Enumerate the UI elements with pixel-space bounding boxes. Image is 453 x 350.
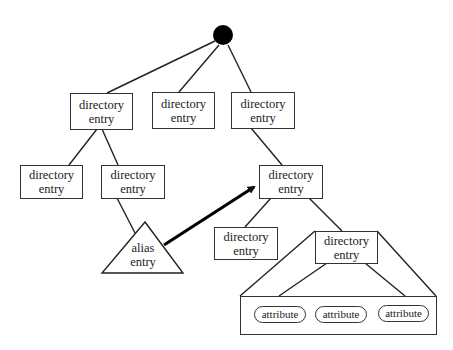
- directory-entry-f: directory entry: [259, 165, 323, 199]
- edge-h-container-right: [377, 231, 436, 296]
- edge-a-e: [102, 129, 118, 165]
- edge-e-alias: [117, 198, 135, 233]
- node-label-line1: directory: [324, 234, 369, 248]
- node-label-line2: entry: [278, 182, 304, 196]
- edge-h-attr1: [279, 263, 327, 296]
- node-label-line1: directory: [79, 98, 124, 112]
- edge-a-d: [69, 129, 97, 165]
- attribute-pill: attribute: [378, 305, 429, 322]
- node-label-line2: entry: [120, 182, 146, 196]
- alias-label-line1: alias: [113, 241, 173, 255]
- edge-h-attr3: [365, 263, 405, 296]
- node-label-line2: entry: [171, 111, 197, 125]
- node-label-line2: entry: [39, 182, 65, 196]
- directory-entry-g: directory entry: [214, 227, 278, 260]
- directory-entry-b: directory entry: [152, 92, 215, 129]
- directory-entry-a: directory entry: [70, 93, 133, 130]
- edge-c-f: [251, 128, 282, 165]
- alias-label-line2: entry: [113, 255, 173, 269]
- attribute-pill: attribute: [254, 306, 306, 323]
- directory-entry-d: directory entry: [20, 165, 83, 199]
- edge-f-h: [309, 198, 342, 231]
- node-label-line1: directory: [110, 168, 155, 182]
- node-label-line1: directory: [268, 168, 313, 182]
- node-label-line2: entry: [233, 244, 259, 258]
- node-label-line1: directory: [29, 168, 74, 182]
- root-node-icon: [213, 25, 233, 45]
- node-label-line2: entry: [89, 112, 115, 126]
- edge-root-c: [228, 45, 251, 92]
- node-label-line2: entry: [334, 248, 360, 262]
- edge-f-g: [245, 198, 271, 227]
- node-label-line1: directory: [161, 97, 206, 111]
- node-label-line1: directory: [223, 230, 268, 244]
- node-label-line1: directory: [240, 97, 285, 111]
- attribute-pill: attribute: [315, 306, 367, 323]
- directory-entry-h: directory entry: [315, 231, 378, 264]
- directory-entry-e: directory entry: [101, 165, 165, 199]
- edge-root-a: [107, 41, 215, 93]
- directory-entry-c: directory entry: [231, 92, 295, 129]
- edge-root-b: [179, 45, 219, 92]
- alias-entry-label: alias entry: [113, 241, 173, 269]
- node-label-line2: entry: [250, 111, 276, 125]
